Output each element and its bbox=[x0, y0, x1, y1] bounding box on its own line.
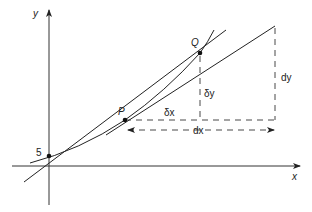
dy-label: dy bbox=[281, 72, 292, 83]
point-p bbox=[123, 118, 128, 123]
chord-line bbox=[24, 30, 226, 182]
derivative-diagram: y x 5 P Q δx δy dx dy bbox=[0, 0, 312, 212]
delta-y-label: δy bbox=[204, 88, 215, 99]
x-axis-label: x bbox=[291, 171, 298, 182]
delta-x-label: δx bbox=[164, 107, 175, 118]
intercept-point bbox=[47, 154, 52, 159]
y-axis-label: y bbox=[32, 8, 39, 19]
point-q-label: Q bbox=[191, 37, 199, 48]
curve bbox=[30, 30, 214, 163]
point-p-label: P bbox=[118, 106, 125, 117]
point-q bbox=[198, 51, 203, 56]
dx-label: dx bbox=[193, 125, 204, 136]
intercept-label: 5 bbox=[36, 147, 42, 158]
